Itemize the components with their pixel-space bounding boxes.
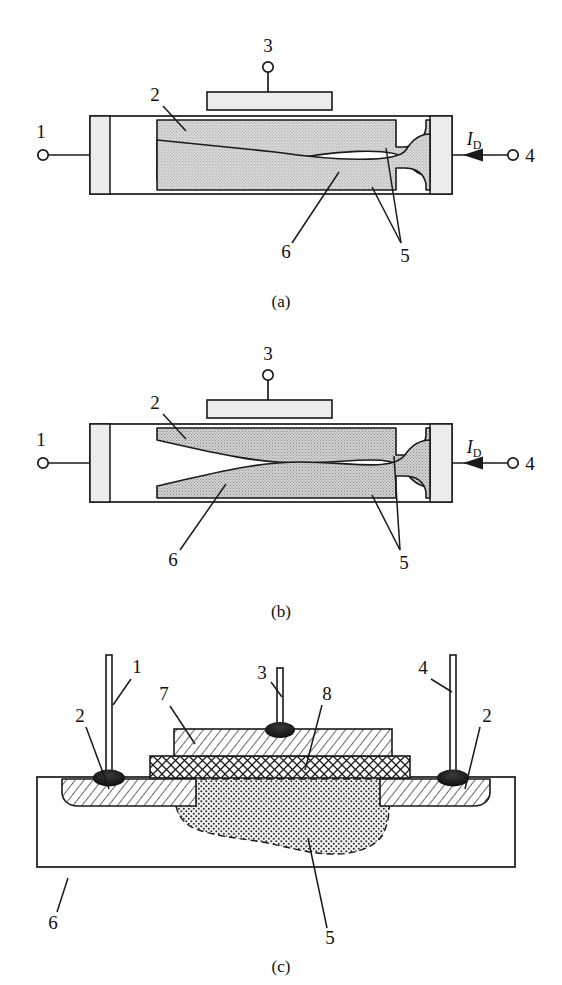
gate-terminal-node[interactable] xyxy=(263,62,273,72)
label-2-right: 2 xyxy=(482,705,492,726)
label-5: 5 xyxy=(325,927,335,948)
label-4: 4 xyxy=(525,453,535,474)
label-2: 2 xyxy=(150,84,160,105)
source-terminal-node[interactable] xyxy=(38,458,48,468)
label-6: 6 xyxy=(168,549,178,570)
gate-plate xyxy=(207,400,332,418)
source-terminal-node[interactable] xyxy=(38,150,48,160)
label-4: 4 xyxy=(525,145,535,166)
drain-terminal-node[interactable] xyxy=(508,150,518,160)
label-6: 6 xyxy=(48,912,58,933)
left-diffusion-region xyxy=(62,779,196,806)
device-diagram-svg: 2 3 1 4 6 5 ID (a) xyxy=(0,0,562,985)
label-3: 3 xyxy=(257,662,267,683)
drain-contact-band xyxy=(430,424,452,502)
label-7: 7 xyxy=(159,683,169,704)
source-solder-bump xyxy=(93,770,125,787)
caption-panel-c: (c) xyxy=(272,957,291,976)
label-1: 1 xyxy=(132,656,142,677)
caption-panel-a: (a) xyxy=(272,292,291,311)
label-3: 3 xyxy=(263,343,273,364)
gate-lead-wire[interactable] xyxy=(277,668,283,730)
source-lead-wire[interactable] xyxy=(106,655,112,777)
label-1: 1 xyxy=(36,429,46,450)
label-2-left: 2 xyxy=(75,705,85,726)
label-6: 6 xyxy=(281,241,291,262)
drain-terminal-node[interactable] xyxy=(508,458,518,468)
gate-plate xyxy=(207,92,332,110)
drain-lead-wire[interactable] xyxy=(450,655,456,777)
oxide-layer xyxy=(150,756,410,778)
drain-contact-band xyxy=(430,116,452,194)
label-5: 5 xyxy=(399,552,409,573)
label-1: 1 xyxy=(36,121,46,142)
label-4: 4 xyxy=(418,657,428,678)
gate-terminal-node[interactable] xyxy=(263,370,273,380)
gate-solder-bump xyxy=(265,722,295,738)
label-2: 2 xyxy=(150,392,160,413)
label-5: 5 xyxy=(400,245,410,266)
figure-root: 2 3 1 4 6 5 ID (a) xyxy=(0,0,562,985)
right-diffusion-region xyxy=(380,779,490,806)
drain-solder-bump xyxy=(437,770,469,787)
label-3: 3 xyxy=(263,35,273,56)
source-contact-band xyxy=(90,424,110,502)
caption-panel-b: (b) xyxy=(271,602,291,621)
label-8: 8 xyxy=(322,683,332,704)
source-contact-band xyxy=(90,116,110,194)
